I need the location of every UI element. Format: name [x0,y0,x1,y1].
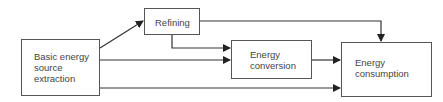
arrow-refining-to-conversion [172,35,230,48]
node-label-line: Energy [250,49,311,60]
arrow-basic-to-refining [100,21,143,48]
node-label-line: Refining [155,17,199,28]
node-label-line: Basic energy [34,51,99,62]
node-basic-energy-source-extraction: Basic energy source extraction [21,39,100,96]
node-refining: Refining [144,8,200,35]
node-label-line: conversion [250,60,311,71]
node-energy-consumption: Energy consumption [341,42,432,97]
node-label-line: consumption [355,68,431,79]
node-label-line: Energy [355,57,431,68]
arrow-refining-to-consumption [200,21,381,41]
node-label-line: extraction [34,73,99,84]
node-energy-conversion: Energy conversion [231,40,312,79]
node-label-line: source [34,62,99,73]
